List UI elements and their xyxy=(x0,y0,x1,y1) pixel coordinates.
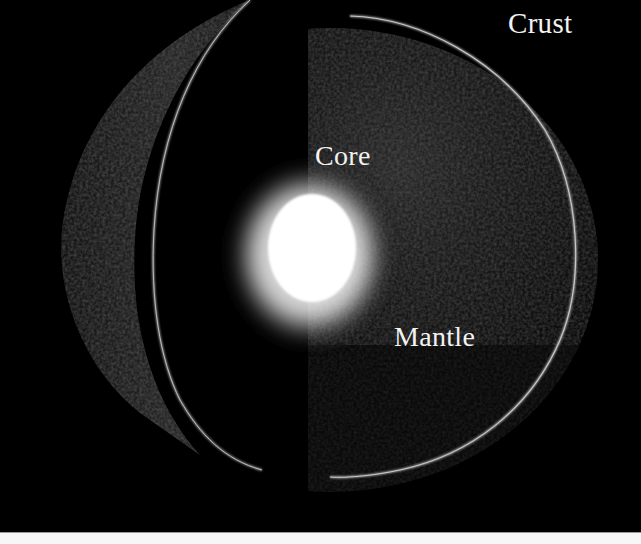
planet-interior-diagram: Crust Core Mantle xyxy=(0,0,641,532)
crust-label: Crust xyxy=(508,9,572,38)
diagram-graphic xyxy=(0,0,641,532)
core-glow xyxy=(225,160,395,350)
bottom-margin xyxy=(0,532,641,544)
surface-crescent xyxy=(61,0,250,455)
core-label: Core xyxy=(315,142,371,170)
mantle-label: Mantle xyxy=(394,323,475,351)
